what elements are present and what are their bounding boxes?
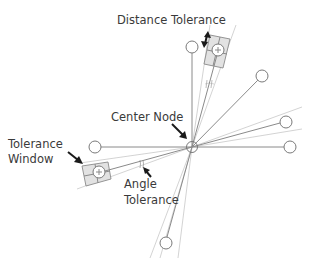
node-upper-right <box>256 70 268 82</box>
label-distance-tolerance: Distance Tolerance <box>117 13 226 27</box>
node-right <box>284 141 296 153</box>
angle-tolerance-arrow-icon <box>143 167 151 177</box>
label-angle-tolerance-line1: Angle <box>124 177 157 191</box>
edge-upper-right <box>192 80 258 147</box>
node-left-lower-matched <box>93 166 105 178</box>
node-bottom <box>160 237 172 249</box>
edge-top-right-matched <box>192 55 217 147</box>
angle-guides <box>77 25 302 258</box>
center-node-arrow-icon <box>172 124 187 139</box>
edge-left-lower-matched <box>105 147 192 171</box>
node-right-tilted <box>280 116 292 128</box>
label-angle-tolerance-line2: Tolerance <box>123 193 179 207</box>
node-top-right-matched <box>212 44 224 56</box>
label-center-node: Center Node <box>111 110 183 124</box>
angle-ticks <box>140 80 214 168</box>
edge-bottom <box>167 147 192 237</box>
edges <box>101 53 284 237</box>
node-left <box>89 141 101 153</box>
label-tolerance-window-line1: Tolerance <box>7 137 63 151</box>
tolerance-diagram: Distance Tolerance Center Node Tolerance… <box>0 0 311 267</box>
label-tolerance-window-line2: Window <box>8 152 53 166</box>
tolerance-window-arrow-icon <box>68 152 83 164</box>
node-top <box>186 41 198 53</box>
guide-bottom-right <box>178 147 192 258</box>
